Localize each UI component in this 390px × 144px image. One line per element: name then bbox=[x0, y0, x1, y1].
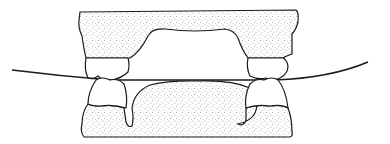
dental-casts-illustration bbox=[0, 0, 390, 144]
occlusal-curve bbox=[12, 62, 368, 80]
lower-right-molar bbox=[246, 78, 289, 108]
upper-right-molar bbox=[247, 58, 288, 80]
lower-left-molar bbox=[88, 78, 127, 108]
upper-left-molar bbox=[85, 58, 129, 81]
upper-cast bbox=[79, 10, 298, 58]
